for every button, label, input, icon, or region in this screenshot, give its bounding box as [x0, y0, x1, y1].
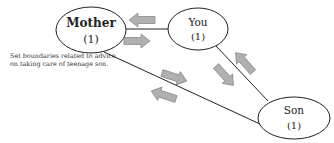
node-mother-count: (1) — [83, 33, 99, 46]
node-you-name: You — [187, 16, 207, 28]
node-mother-name: Mother — [66, 16, 116, 30]
node-mother: Mother (1) — [56, 7, 126, 53]
boundary-note: Set boundaries related to advice on taki… — [10, 52, 120, 69]
arrow-up-left-icon — [230, 48, 258, 77]
arrow-right-icon — [124, 34, 150, 48]
node-you: You (1) — [168, 8, 228, 50]
node-son: Son (1) — [258, 97, 330, 139]
arrow-left-icon — [129, 13, 155, 27]
arrow-left-up-icon — [149, 84, 178, 105]
node-son-count: (1) — [287, 120, 301, 131]
relationship-diagram: Mother (1) You (1) Son (1) — [0, 0, 334, 143]
node-you-count: (1) — [191, 31, 205, 42]
node-son-name: Son — [284, 104, 305, 116]
